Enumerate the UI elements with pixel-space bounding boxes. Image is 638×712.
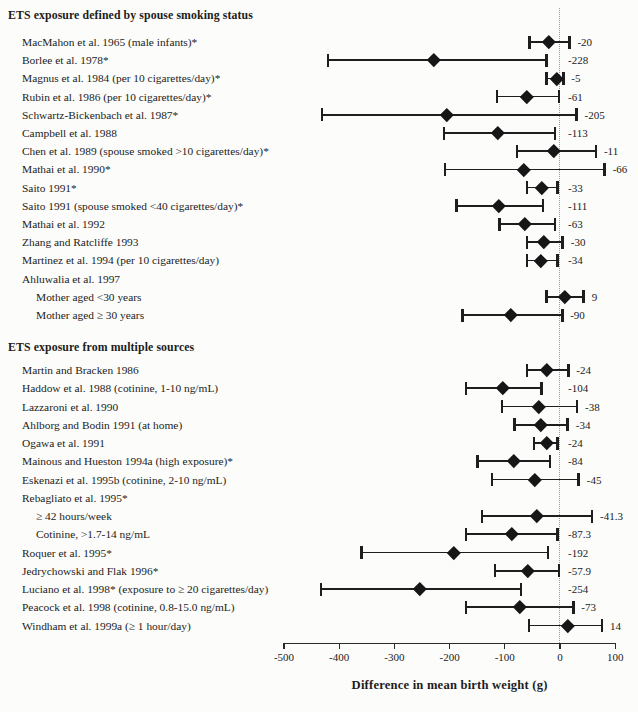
estimate-value: 9	[592, 289, 598, 305]
ci-lower-cap	[443, 127, 446, 140]
estimate-value: -5	[571, 70, 580, 86]
x-axis-tick	[394, 643, 395, 649]
point-estimate-diamond-icon	[427, 53, 441, 67]
x-axis-tick-label: 100	[593, 651, 637, 664]
study-label: Luciano et al. 1998* (exposure to ≥ 20 c…	[22, 581, 268, 597]
ci-lower-cap	[513, 418, 516, 431]
study-label: Mainous and Hueston 1994a (high exposure…	[22, 453, 233, 469]
x-axis-tick	[283, 643, 284, 649]
estimate-value: -192	[568, 545, 588, 561]
study-label: Eskenazi et al. 1995b (cotinine, 2-10 ng…	[22, 472, 226, 488]
ci-lower-cap	[526, 254, 529, 267]
study-label: Mathai et al. 1992	[22, 216, 105, 232]
point-estimate-diamond-icon	[561, 619, 575, 633]
point-estimate-diamond-icon	[520, 90, 534, 104]
ci-upper-cap	[567, 364, 570, 377]
point-estimate-diamond-icon	[530, 509, 544, 523]
ci-lower-cap	[465, 601, 468, 614]
point-estimate-diamond-icon	[496, 381, 510, 395]
estimate-value: -34	[576, 417, 591, 433]
ci-lower-cap	[491, 473, 494, 486]
point-estimate-diamond-icon	[507, 454, 521, 468]
estimate-value: -63	[568, 216, 583, 232]
zero-reference-line	[559, 8, 560, 643]
x-axis-tick-label: -400	[317, 651, 361, 664]
x-axis-tick-label: 0	[538, 651, 582, 664]
ci-lower-cap	[528, 36, 531, 49]
estimate-value: -205	[585, 107, 605, 123]
x-axis-tick-label: -500	[262, 651, 306, 664]
point-estimate-diamond-icon	[413, 582, 427, 596]
study-label: Rebagliato et al. 1995*	[22, 490, 128, 506]
estimate-value: -20	[577, 34, 592, 50]
ci-upper-cap	[603, 163, 606, 176]
x-axis-tick	[559, 643, 560, 649]
study-label: Roquer et al. 1995*	[22, 545, 112, 561]
point-estimate-diamond-icon	[542, 35, 556, 49]
point-estimate-diamond-icon	[440, 108, 454, 122]
estimate-value: -111	[568, 198, 587, 214]
point-estimate-diamond-icon	[528, 473, 542, 487]
study-label: Saito 1991 (spouse smoked <40 cigarettes…	[22, 198, 243, 214]
point-estimate-diamond-icon	[492, 199, 506, 213]
estimate-value: 14	[610, 618, 621, 634]
ci-lower-cap	[526, 236, 529, 249]
ci-upper-cap	[595, 145, 598, 158]
ci-lower-cap	[494, 564, 497, 577]
study-label: Borlee et al. 1978*	[22, 52, 109, 68]
ci-upper-cap	[575, 108, 578, 121]
estimate-value: -113	[568, 125, 588, 141]
ci-lower-cap	[444, 163, 447, 176]
x-axis-tick-label: -200	[428, 651, 472, 664]
ci-upper-cap	[566, 418, 569, 431]
estimate-value: -90	[570, 307, 585, 323]
ci-lower-cap	[498, 218, 501, 231]
ci-upper-cap	[547, 546, 550, 559]
section-title: ETS exposure defined by spouse smoking s…	[8, 8, 253, 23]
x-axis-tick	[504, 643, 505, 649]
x-axis-tick	[449, 643, 450, 649]
ci-lower-cap	[321, 108, 324, 121]
study-label: Ogawa et al. 1991	[22, 435, 105, 451]
ci-lower-cap	[320, 583, 323, 596]
estimate-value: -38	[585, 399, 600, 415]
x-axis-title: Difference in mean birth weight (g)	[284, 678, 615, 693]
study-label: Ahlborg and Bodin 1991 (at home)	[22, 417, 182, 433]
forest-plot-figure: ETS exposure defined by spouse smoking s…	[0, 0, 638, 712]
ci-upper-cap	[556, 437, 559, 450]
ci-upper-cap	[549, 455, 552, 468]
point-estimate-diamond-icon	[513, 600, 527, 614]
estimate-value: -66	[613, 161, 628, 177]
ci-upper-cap	[572, 601, 575, 614]
study-label: Zhang and Ratcliffe 1993	[22, 234, 139, 250]
point-estimate-diamond-icon	[534, 254, 548, 268]
ci-lower-cap	[526, 364, 529, 377]
ci-lower-cap	[465, 528, 468, 541]
ci-upper-cap	[540, 382, 543, 395]
estimate-value: -24	[568, 435, 583, 451]
ci-upper-cap	[556, 181, 559, 194]
ci-upper-cap	[601, 619, 604, 632]
study-label: ≥ 42 hours/week	[36, 508, 112, 524]
study-label: Ahluwalia et al. 1997	[22, 271, 120, 287]
ci-upper-cap	[520, 583, 523, 596]
point-estimate-diamond-icon	[447, 546, 461, 560]
study-label: Peacock et al. 1998 (cotinine, 0.8-15.0 …	[22, 599, 235, 615]
study-label: Saito 1991*	[22, 180, 77, 196]
ci-lower-cap	[528, 619, 531, 632]
estimate-value: -228	[568, 52, 588, 68]
study-label: Campbell et al. 1988	[22, 125, 117, 141]
ci-upper-cap	[554, 218, 557, 231]
ci-upper-cap	[558, 90, 561, 103]
ci-lower-cap	[327, 54, 330, 67]
ci-lower-cap	[533, 437, 536, 450]
estimate-value: -30	[571, 234, 586, 250]
ci-upper-cap	[545, 54, 548, 67]
study-label: Windham et al. 1999a (≥ 1 hour/day)	[22, 618, 191, 634]
ci-lower-cap	[461, 309, 464, 322]
ci-upper-cap	[568, 36, 571, 49]
estimate-value: -34	[568, 252, 583, 268]
ci-lower-cap	[481, 510, 484, 523]
study-label: Magnus et al. 1984 (per 10 cigarettes/da…	[22, 70, 220, 86]
study-label: Martin and Bracken 1986	[22, 362, 139, 378]
